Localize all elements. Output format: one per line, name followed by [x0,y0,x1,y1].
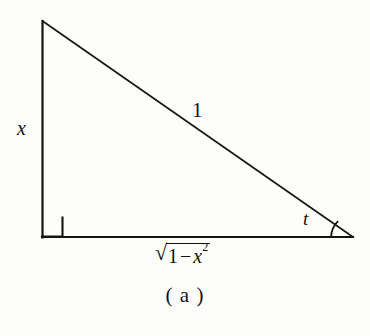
figure-caption: ( a ) [0,283,370,308]
vertical-leg-label: x [17,118,26,138]
hypotenuse-label: 1 [192,100,203,121]
radicand-exponent: 2 [202,240,208,254]
radicand-one: 1 [168,245,178,267]
right-angle-marker [43,218,63,237]
angle-label: t [303,209,308,228]
radicand-minus: − [178,245,193,267]
radical-sign-icon: √ [155,242,167,264]
hypotenuse-line [43,21,354,237]
radicand-x: x [193,245,202,267]
figure-container: x 1 t √ 1−x2 ( a ) [0,0,370,336]
radicand: 1−x2 [166,243,210,267]
base-label: √ 1−x2 [155,243,210,267]
radical-expression: √ 1−x2 [155,243,210,267]
